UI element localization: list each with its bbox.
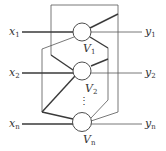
link-left-to-vn [42,112,73,119]
node-vn [73,113,92,132]
label-x1: x1 [9,25,20,39]
label-y2: y2 [144,66,156,80]
label-xn: xn [9,117,20,131]
node-v2 [73,62,91,80]
link-v1-to-right-inner [90,37,108,48]
link-outer-to-v2 [51,55,73,70]
label-vn: Vn [83,133,96,147]
label-y1: y1 [144,25,156,39]
link-v1-to-outer-right [90,14,118,28]
inner-feedback-line-left [42,37,74,112]
network-diagram: x1 x2 xn y1 y2 yn V1 V2 Vn ⋮ [0,0,166,151]
link-left-to-v2 [42,76,75,112]
link-v2-to-right-inner [91,59,108,66]
label-v1: V1 [83,42,95,56]
vertical-ellipsis: ⋮ [79,95,89,106]
node-v1 [73,23,91,41]
label-v2: V2 [85,82,97,96]
inner-feedback-line-right [91,48,108,118]
label-x2: x2 [9,66,20,80]
label-yn: yn [144,117,156,131]
